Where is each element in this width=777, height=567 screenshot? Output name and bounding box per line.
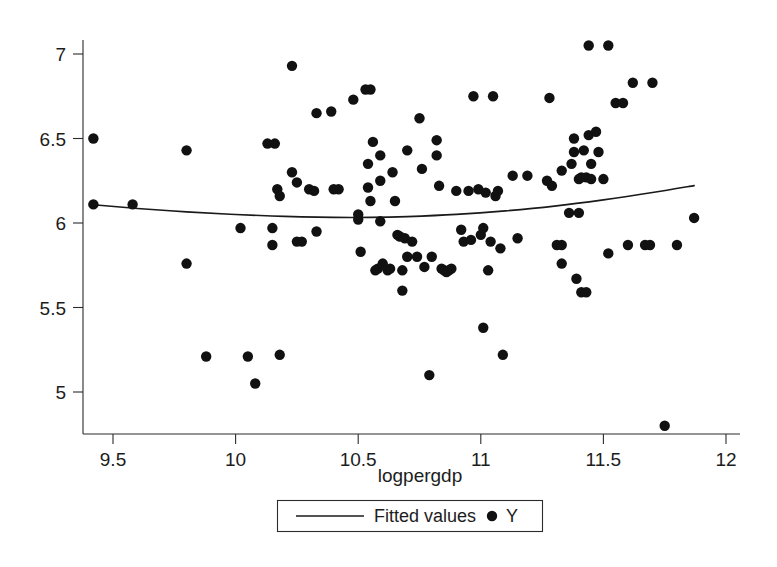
scatter-point: [88, 133, 98, 143]
scatter-point: [412, 252, 422, 262]
scatter-point: [363, 182, 373, 192]
scatter-point: [493, 186, 503, 196]
scatter-points-group: [88, 40, 699, 431]
scatter-point: [507, 170, 517, 180]
scatter-point: [385, 263, 395, 273]
scatter-point: [603, 248, 613, 258]
scatter-point: [355, 247, 365, 257]
scatter-point: [488, 91, 498, 101]
scatter-point: [456, 225, 466, 235]
y-tick-label: 5: [55, 382, 66, 403]
scatter-point: [407, 236, 417, 246]
scatter-point: [348, 94, 358, 104]
scatter-point: [446, 263, 456, 273]
scatter-point: [427, 252, 437, 262]
x-axis-title: logpergdp: [378, 465, 463, 486]
scatter-point: [583, 40, 593, 50]
scatter-point: [414, 113, 424, 123]
scatter-point: [353, 209, 363, 219]
x-tick-label: 12: [715, 449, 736, 470]
scatter-point: [235, 223, 245, 233]
scatter-point: [363, 159, 373, 169]
scatter-point: [569, 147, 579, 157]
scatter-point: [311, 226, 321, 236]
scatter-point: [181, 258, 191, 268]
scatter-point: [544, 93, 554, 103]
scatter-point: [566, 159, 576, 169]
scatter-point: [495, 243, 505, 253]
scatter-point: [88, 199, 98, 209]
scatter-point: [375, 176, 385, 186]
scatter-point: [309, 186, 319, 196]
scatter-point: [498, 350, 508, 360]
scatter-point: [512, 233, 522, 243]
y-tick-label: 5.5: [40, 298, 66, 319]
scatter-point: [275, 350, 285, 360]
legend-label-y: Y: [506, 506, 518, 526]
scatter-point: [417, 164, 427, 174]
scatter-point: [333, 184, 343, 194]
scatter-point: [243, 351, 253, 361]
scatter-point: [618, 98, 628, 108]
scatter-point: [466, 235, 476, 245]
scatter-point: [586, 159, 596, 169]
scatter-point: [424, 370, 434, 380]
x-tick-label: 10: [225, 449, 246, 470]
scatter-point: [402, 145, 412, 155]
scatter-point: [390, 196, 400, 206]
legend-label-fitted-values: Fitted values: [374, 506, 476, 526]
scatter-point: [598, 174, 608, 184]
scatter-point: [431, 150, 441, 160]
scatter-point: [431, 135, 441, 145]
scatter-point: [463, 186, 473, 196]
scatter-point: [375, 150, 385, 160]
scatter-point: [287, 167, 297, 177]
scatter-point: [287, 61, 297, 71]
scatter-point: [387, 167, 397, 177]
scatter-point: [478, 223, 488, 233]
scatter-point: [451, 186, 461, 196]
scatter-point: [483, 265, 493, 275]
x-tick-label: 9.5: [100, 449, 126, 470]
scatter-point: [689, 213, 699, 223]
y-axis-ticks: 55.566.57: [40, 44, 83, 403]
scatter-point: [419, 262, 429, 272]
scatter-point: [201, 351, 211, 361]
x-tick-label: 11: [471, 449, 491, 470]
scatter-point: [557, 240, 567, 250]
scatter-point: [647, 78, 657, 88]
scatter-point: [574, 208, 584, 218]
scatter-point: [181, 145, 191, 155]
scatter-point: [275, 191, 285, 201]
scatter-point: [522, 170, 532, 180]
scatter-point: [593, 147, 603, 157]
scatter-point: [591, 127, 601, 137]
scatter-point: [402, 252, 412, 262]
scatter-point: [297, 236, 307, 246]
chart-legend: Fitted values Y: [278, 501, 543, 532]
scatter-point: [368, 137, 378, 147]
x-tick-label: 11.5: [586, 449, 622, 470]
scatter-point: [267, 240, 277, 250]
y-tick-label: 6: [55, 213, 66, 234]
scatter-point: [397, 285, 407, 295]
scatter-point: [397, 265, 407, 275]
scatter-point: [603, 40, 613, 50]
scatter-point: [375, 216, 385, 226]
scatter-point: [270, 138, 280, 148]
scatter-point: [478, 323, 488, 333]
scatter-point: [569, 133, 579, 143]
scatter-point: [645, 240, 655, 250]
scatter-point: [628, 78, 638, 88]
scatter-point: [557, 258, 567, 268]
scatter-point: [365, 84, 375, 94]
scatter-point: [365, 196, 375, 206]
scatter-point: [468, 91, 478, 101]
scatter-point: [434, 181, 444, 191]
scatter-plot-canvas: 55.566.57 9.51010.51111.512 logpergdp Fi…: [0, 0, 777, 567]
scatter-point: [292, 177, 302, 187]
scatter-point: [579, 145, 589, 155]
scatter-point: [485, 236, 495, 246]
scatter-point: [571, 274, 581, 284]
legend-dot-swatch: [487, 511, 497, 521]
